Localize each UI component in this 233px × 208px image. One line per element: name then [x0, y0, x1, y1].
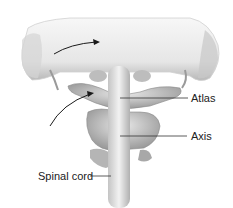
spinal-cord-shape [108, 66, 130, 208]
skull-spine-drawing [0, 0, 233, 208]
anatomy-illustration: Atlas Axis Spinal cord [0, 0, 233, 208]
axis-label: Axis [191, 130, 212, 142]
spinal-cord-label: Spinal cord [38, 170, 93, 182]
atlas-label: Atlas [191, 92, 215, 104]
arrow-lower [50, 94, 90, 126]
